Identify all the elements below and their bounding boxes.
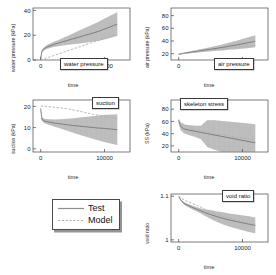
axis-label-y-air-pressure: air pressure (kPa) (144, 27, 150, 68)
svg-text:0: 0 (27, 146, 31, 152)
panel-tag-water-pressure: water pressure (60, 58, 108, 70)
axis-label-x-water-pressure: time (38, 82, 108, 88)
axis-label-x-suction: time (38, 174, 108, 180)
figure-legend: Test Model (52, 199, 120, 230)
plot-area-air-pressure: 01000020406080 (138, 2, 276, 80)
svg-text:40: 40 (24, 8, 31, 14)
svg-text:80: 80 (162, 13, 169, 19)
svg-text:20: 20 (24, 104, 31, 110)
legend-label-model: Model (88, 216, 113, 225)
svg-text:60: 60 (162, 119, 169, 125)
panel-suction: suction (kPa) 01000001020 time suction (0, 96, 138, 188)
svg-text:10000: 10000 (234, 245, 251, 251)
svg-text:60: 60 (162, 25, 169, 31)
axis-label-y-suction: suction (kPa) (10, 124, 16, 154)
panel-tag-skeleton-stress: skeleton stress (180, 98, 228, 110)
axis-label-y-water-pressure: water pressure (kPa) (10, 24, 16, 72)
axis-label-x-air-pressure: time (174, 82, 244, 88)
legend-swatch-model (58, 217, 84, 224)
svg-text:0: 0 (27, 57, 31, 63)
panel-water-pressure: water pressure (kPa) 01000002040 time wa… (0, 2, 138, 92)
panel-tag-suction: suction (92, 97, 119, 109)
svg-text:10000: 10000 (234, 155, 251, 161)
svg-text:1.1: 1.1 (160, 193, 169, 199)
axis-label-y-void-ratio: void ratio (144, 223, 150, 244)
svg-text:0: 0 (177, 245, 181, 251)
svg-text:10000: 10000 (96, 155, 113, 161)
svg-text:20: 20 (162, 51, 169, 57)
panel-air-pressure: air pressure (kPa) 01000020406080 time a… (138, 2, 276, 92)
legend-entry-test: Test (58, 204, 113, 213)
legend-entry-model: Model (58, 216, 113, 225)
legend-swatch-test (58, 205, 84, 212)
axis-label-x-skeleton-stress: time (174, 174, 244, 180)
svg-text:20: 20 (24, 32, 31, 38)
svg-text:0: 0 (177, 155, 181, 161)
svg-text:1: 1 (165, 237, 169, 243)
axis-label-y-skeleton-stress: SS (kPa) (144, 123, 150, 144)
svg-text:80: 80 (162, 106, 169, 112)
svg-text:0: 0 (39, 155, 43, 161)
svg-text:0: 0 (39, 63, 43, 69)
plot-area-void-ratio: 01000011.1 (138, 188, 276, 262)
legend-label-test: Test (88, 204, 105, 213)
panel-void-ratio: void ratio 01000011.1 time void ratio (138, 188, 276, 275)
panel-tag-air-pressure: air pressure (214, 58, 254, 70)
svg-text:40: 40 (162, 131, 169, 137)
panel-skeleton-stress: SS (kPa) 01000020406080 time skeleton st… (138, 96, 276, 188)
svg-text:40: 40 (162, 38, 169, 44)
svg-text:10: 10 (24, 125, 31, 131)
svg-text:20: 20 (162, 143, 169, 149)
svg-text:0: 0 (177, 63, 181, 69)
axis-label-x-void-ratio: time (174, 264, 244, 270)
panel-tag-void-ratio: void ratio (222, 190, 254, 202)
